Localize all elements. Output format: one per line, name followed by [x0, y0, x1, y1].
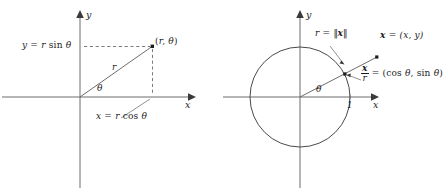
- y-axis-arrow-icon: [296, 10, 304, 18]
- y-component-label: y = r sin θ: [22, 41, 71, 50]
- norm-leader-arrow-icon: [340, 60, 345, 64]
- vector-point-label: x = (x, y): [380, 31, 424, 40]
- unit-vector-point-marker: [343, 72, 346, 75]
- unit-tick-label: 1: [347, 101, 353, 110]
- x-axis-label: x: [373, 100, 379, 110]
- unit-vector-fraction: x r: [361, 64, 369, 84]
- norm-label: r = ‖x‖: [315, 29, 347, 38]
- x-component-label: x = r cos θ: [96, 112, 147, 121]
- theta-angle-label: θ: [316, 85, 322, 94]
- y-axis-arrow-icon: [76, 10, 84, 18]
- norm-leader-line: [330, 46, 343, 63]
- unit-vector-leader-arrow-icon: [346, 73, 351, 77]
- panel-polar-coordinates: y = r sin θ x = r cos θ (r, θ) r θ x y: [0, 0, 221, 195]
- radius-label: r: [112, 63, 117, 72]
- x-axis-label: x: [185, 100, 191, 110]
- panel-unit-circle: r = ‖x‖ x = (x, y) x r = (cos θ, sin θ) …: [221, 0, 442, 195]
- unit-vector-leader-line: [349, 76, 361, 81]
- point-marker: [151, 45, 154, 48]
- vector-point-marker: [375, 55, 378, 58]
- theta-angle-label: θ: [97, 84, 103, 93]
- unit-vector-label: x r = (cos θ, sin θ): [361, 64, 443, 84]
- y-axis-label: y: [306, 10, 312, 20]
- polar-point-label: (r, θ): [155, 37, 178, 46]
- y-axis-label: y: [86, 10, 92, 20]
- polar-diagram-svg: [0, 0, 221, 195]
